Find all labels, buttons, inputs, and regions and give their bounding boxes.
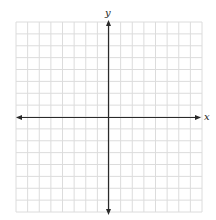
y-axis-label: y	[105, 8, 111, 18]
y-axis-up-arrow-icon	[106, 20, 111, 26]
x-axis-label: x	[204, 112, 210, 122]
x-axis-left-arrow-icon	[16, 115, 22, 120]
x-axis-right-arrow-icon	[195, 115, 201, 120]
coordinate-grid	[0, 0, 216, 220]
